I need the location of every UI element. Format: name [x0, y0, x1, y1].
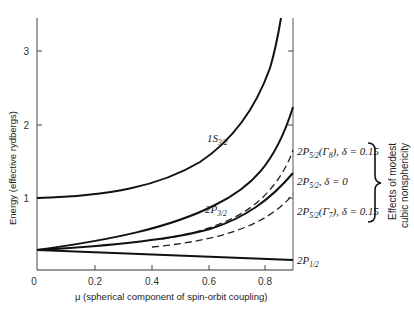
y-axis-label: Energy (effective rydbergs) — [7, 111, 18, 225]
label-1s32: 1S3/2 — [207, 132, 228, 147]
energy-chart: 1 2 3 0 0.2 0.4 0.6 0.8 μ (spherical com… — [0, 0, 414, 315]
x-tick-0.4: 0.4 — [145, 276, 159, 287]
x-tick-0.6: 0.6 — [202, 276, 216, 287]
x-axis-label: μ (spherical component of spin-orbit cou… — [75, 291, 267, 302]
label-2p32: 2P3/2 — [205, 203, 227, 218]
x-tick-0: 0 — [31, 276, 37, 287]
brace-note-line1: Effects of modest — [387, 143, 398, 220]
x-ticks: 0 0.2 0.4 0.6 0.8 — [31, 265, 272, 287]
curve-2p12 — [37, 250, 293, 260]
label-2p52-delta0: 2P5/2, δ = 0 — [297, 175, 348, 190]
y-tick-2: 2 — [23, 120, 29, 131]
label-2p52-gamma8: 2P5/2(Γ8), δ = 0.15 — [297, 145, 379, 160]
label-2p12: 2P1/2 — [297, 254, 319, 269]
curve-2p52-delta0 — [37, 173, 293, 250]
label-2p52-gamma7: 2P5/2(Γ7), δ = 0.15 — [297, 205, 379, 220]
curve-1s32 — [37, 18, 281, 198]
y-tick-1: 1 — [23, 193, 29, 204]
y-tick-3: 3 — [23, 46, 29, 57]
x-tick-0.2: 0.2 — [88, 276, 102, 287]
x-tick-0.8: 0.8 — [258, 276, 272, 287]
brace-note-line2: cubic nonsphericity — [399, 143, 410, 228]
